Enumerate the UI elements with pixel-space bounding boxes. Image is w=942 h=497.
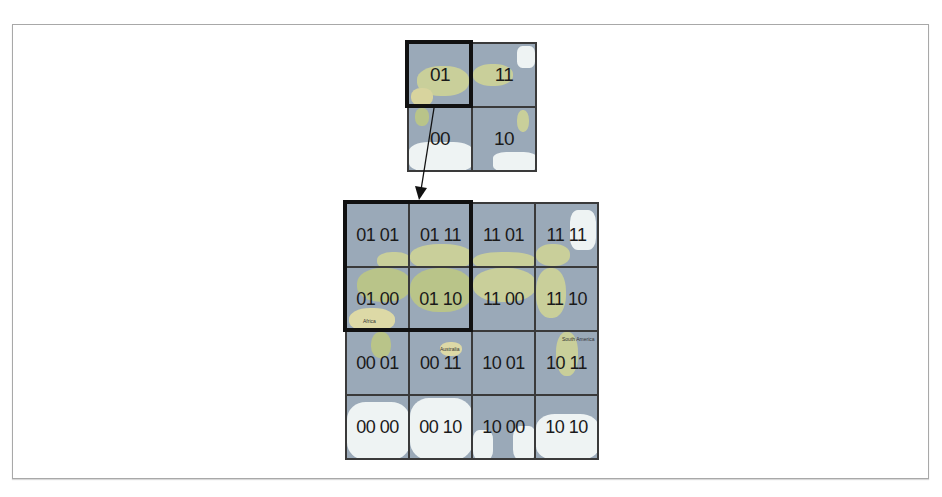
arrow-icon xyxy=(0,0,942,497)
